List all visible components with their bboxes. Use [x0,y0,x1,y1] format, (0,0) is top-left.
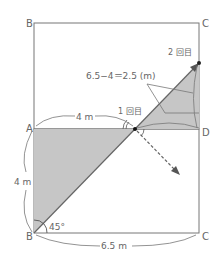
folding-diagram: B C A D B C 4 m 4 m 6.5 m 45° 6.5−4＝2.5 … [0,0,223,263]
label-a: A [26,123,33,134]
label-first-fold: 1 回目 [118,107,142,116]
label-c-bottom: C [202,231,209,242]
label-ad-4m: 4 m [76,112,93,122]
label-b-bottom: B [26,231,33,242]
label-second-fold: 2 回目 [168,48,192,57]
label-b-top: B [26,18,33,29]
point-first-fold [133,127,137,131]
label-d: D [202,127,210,138]
label-ab-4m: 4 m [14,177,31,187]
label-equation: 6.5−4＝2.5 (m) [86,71,156,81]
reflection-arrow [137,131,176,171]
point-second-fold [197,61,201,65]
label-45-degrees: 45° [49,222,65,232]
label-c-top: C [202,18,209,29]
label-bc-6-5m: 6.5 m [101,241,127,251]
